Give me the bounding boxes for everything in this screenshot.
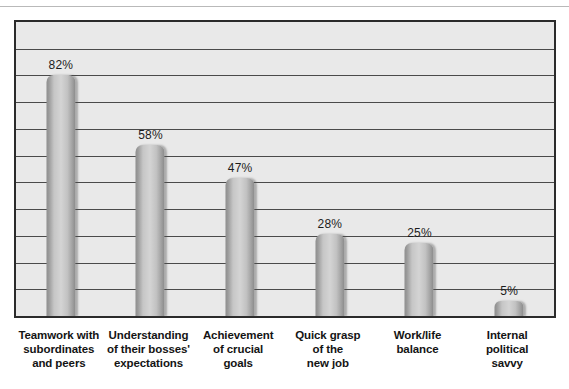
bars-layer: 82%58%47%28%25%5% xyxy=(16,22,554,316)
bar-value-label: 47% xyxy=(228,161,253,175)
category-label-line: new job xyxy=(281,356,375,370)
bar-slot: 47% xyxy=(195,22,285,316)
bar-value-label: 25% xyxy=(407,226,432,240)
category-axis-labels: Teamwork withsubordinatesand peersUnders… xyxy=(14,328,556,386)
category-label-line: Internal xyxy=(460,328,554,342)
category-label-line: political xyxy=(460,342,554,356)
bar xyxy=(315,234,344,316)
category-label-line: savvy xyxy=(460,356,554,370)
bar xyxy=(46,75,75,316)
category-label-line: expectations xyxy=(102,356,196,370)
bar-slot: 25% xyxy=(375,22,465,316)
category-label-line: Teamwork with xyxy=(12,328,106,342)
bar-value-label: 82% xyxy=(49,58,74,72)
category-label-line: and peers xyxy=(12,356,106,370)
bar-slot: 58% xyxy=(106,22,196,316)
plot-area: 82%58%47%28%25%5% xyxy=(14,20,556,318)
category-label: Teamwork withsubordinatesand peers xyxy=(12,328,106,371)
bar-value-label: 58% xyxy=(138,128,163,142)
bar xyxy=(405,243,434,317)
category-label-line: Achievement xyxy=(191,328,285,342)
top-divider-rule xyxy=(0,6,569,7)
bar-value-label: 28% xyxy=(318,217,343,231)
bar xyxy=(136,145,165,316)
bar-chart: 82%58%47%28%25%5% Teamwork withsubordina… xyxy=(0,0,569,389)
category-label: Understandingof their bosses'expectation… xyxy=(102,328,196,371)
category-label-line: of their bosses' xyxy=(102,342,196,356)
bar-value-label: 5% xyxy=(500,284,518,298)
bar xyxy=(495,301,524,316)
bar-slot: 28% xyxy=(285,22,375,316)
category-label-line: Quick grasp xyxy=(281,328,375,342)
category-label-line: of crucial xyxy=(191,342,285,356)
bar-slot: 5% xyxy=(464,22,554,316)
category-label-line: of the xyxy=(281,342,375,356)
category-label-line: goals xyxy=(191,356,285,370)
bar xyxy=(226,178,255,316)
category-label-line: balance xyxy=(371,342,465,356)
category-label-line: subordinates xyxy=(12,342,106,356)
category-label-line: Understanding xyxy=(102,328,196,342)
category-label: Internalpoliticalsavvy xyxy=(460,328,554,371)
category-label-line: Work/life xyxy=(371,328,465,342)
bar-slot: 82% xyxy=(16,22,106,316)
category-label: Work/lifebalance xyxy=(371,328,465,356)
category-label: Quick graspof thenew job xyxy=(281,328,375,371)
category-label: Achievementof crucialgoals xyxy=(191,328,285,371)
